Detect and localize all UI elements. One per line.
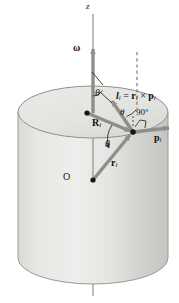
cross-sign: × <box>138 90 149 101</box>
z-axis-label: z <box>86 2 90 11</box>
p-i-label: pi <box>154 133 161 144</box>
particle-point <box>130 129 136 135</box>
theta-low-label: θ <box>105 139 110 149</box>
theta-top-label: θ <box>95 88 100 98</box>
figure-canvas <box>0 0 179 303</box>
physics-figure: z ω θ li = ri × pi θ 90° Ri pi θ ri O <box>0 0 179 303</box>
R-i-label: Ri <box>92 118 101 129</box>
origin-label: O <box>63 172 70 182</box>
angular-momentum-equation-label: li = ri × pi <box>116 91 156 102</box>
p-subscript: i <box>154 94 156 101</box>
omega-label: ω <box>73 43 80 53</box>
p-label-subscript: i <box>160 136 162 143</box>
theta-mid-label: θ <box>120 108 124 117</box>
origin-point <box>90 177 95 182</box>
R-subscript: i <box>99 121 101 128</box>
axis-point <box>84 110 89 115</box>
right-angle-label: 90° <box>136 108 149 117</box>
r-i-label: ri <box>111 158 117 169</box>
equals-sign: = <box>121 90 132 101</box>
r-label-subscript: i <box>115 161 117 168</box>
